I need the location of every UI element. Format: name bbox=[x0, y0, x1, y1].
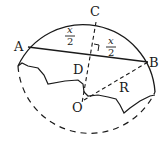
label-a: A bbox=[13, 39, 24, 54]
label-d: D bbox=[73, 62, 83, 77]
label-b: B bbox=[149, 55, 159, 70]
fraction-right-half: x 2 bbox=[106, 35, 116, 58]
fraction-left-denominator: 2 bbox=[67, 36, 73, 47]
circle-chord-diagram: A B C D O R x 2 x 2 bbox=[0, 0, 162, 165]
label-c: C bbox=[90, 4, 100, 19]
radius-ob-dashed bbox=[84, 62, 148, 100]
fraction-right-numerator: x bbox=[108, 35, 114, 46]
label-r: R bbox=[119, 80, 130, 95]
fraction-left-numerator: x bbox=[67, 24, 73, 35]
circle-dashed-arc bbox=[18, 66, 155, 133]
chord-ab bbox=[28, 47, 148, 62]
fraction-right-denominator: 2 bbox=[108, 47, 114, 58]
label-o: O bbox=[72, 100, 83, 115]
fraction-left-half: x 2 bbox=[65, 24, 75, 47]
circle-solid-arc bbox=[18, 25, 155, 92]
right-angle-marker bbox=[94, 44, 99, 51]
